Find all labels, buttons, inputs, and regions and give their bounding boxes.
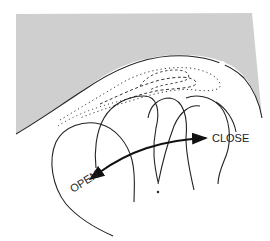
close-label: CLOSE (212, 132, 249, 144)
dotted-contour-left (58, 100, 124, 126)
open-label: OPEN (68, 168, 101, 195)
shaded-region (16, 13, 262, 134)
gyrus-curve-4 (158, 106, 200, 184)
diagram-canvas: CLOSE OPEN (0, 0, 270, 241)
gyrus-curve-3 (148, 98, 194, 190)
dashed-contour-loop (140, 70, 189, 90)
endpoint-dot (157, 191, 159, 193)
open-close-arrow (100, 138, 206, 172)
notch-mark (219, 61, 225, 67)
